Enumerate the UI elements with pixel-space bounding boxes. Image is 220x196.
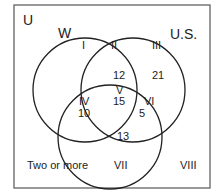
set-us-label: U.S. bbox=[170, 27, 197, 41]
region-vii-value: 13 bbox=[117, 131, 129, 142]
region-iv-value: 10 bbox=[78, 108, 90, 119]
region-ii-label: II bbox=[111, 40, 117, 51]
region-iv-label: IV bbox=[79, 96, 89, 107]
region-viii-label: VIII bbox=[180, 160, 197, 171]
region-vi-value: 5 bbox=[139, 108, 145, 119]
region-v-value: 15 bbox=[113, 96, 125, 107]
universe-label: U bbox=[23, 13, 33, 27]
region-iii-value: 21 bbox=[152, 70, 164, 81]
region-vi-label: VI bbox=[144, 96, 154, 107]
region-i-label: I bbox=[82, 40, 85, 51]
two-or-more-annotation: Two or more bbox=[27, 160, 88, 171]
region-iii-label: III bbox=[152, 40, 161, 51]
set-w-label: W bbox=[58, 26, 71, 40]
region-ii-value: 12 bbox=[113, 70, 125, 81]
region-vii-label: VII bbox=[114, 160, 127, 171]
